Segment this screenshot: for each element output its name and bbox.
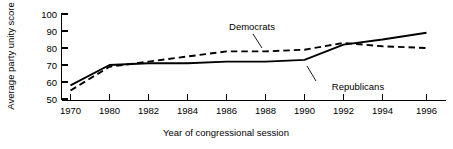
y-tick-label: 50 <box>46 94 57 105</box>
y-tick-label: 60 <box>46 77 57 88</box>
x-axis-ticks <box>71 94 427 100</box>
y-axis-tick-labels: 100 90 80 70 60 50 <box>41 9 57 105</box>
x-axis-title: Year of congressional session <box>163 127 289 138</box>
chart-container: 100 90 80 70 60 50 1970 1980 1982 1984 <box>0 0 453 149</box>
x-tick-label: 1982 <box>138 105 159 116</box>
republicans-leader-line <box>307 66 316 81</box>
x-tick-label: 1986 <box>216 105 237 116</box>
y-tick-label: 90 <box>46 26 57 37</box>
x-tick-label: 1980 <box>99 105 120 116</box>
y-axis-title: Average party unity score <box>5 2 16 110</box>
x-axis-tick-labels: 1970 1980 1982 1984 1986 1988 1990 1992 … <box>60 105 437 116</box>
x-tick-label: 1994 <box>372 105 393 116</box>
republicans-annotation-label: Republicans <box>332 81 385 92</box>
y-tick-label: 100 <box>41 9 57 20</box>
x-tick-label: 1988 <box>255 105 276 116</box>
democrats-annotation-label: Democrats <box>229 21 275 32</box>
x-tick-label: 1970 <box>60 105 81 116</box>
y-tick-label: 80 <box>46 43 57 54</box>
series-line-republicans <box>71 33 427 86</box>
x-tick-label: 1984 <box>177 105 198 116</box>
party-unity-line-chart: 100 90 80 70 60 50 1970 1980 1982 1984 <box>0 0 453 149</box>
y-tick-label: 70 <box>46 60 57 71</box>
democrats-leader-line <box>253 34 262 48</box>
y-axis-ticks <box>62 14 69 99</box>
x-tick-label: 1990 <box>294 105 315 116</box>
x-tick-label: 1996 <box>416 105 437 116</box>
x-tick-label: 1992 <box>333 105 354 116</box>
